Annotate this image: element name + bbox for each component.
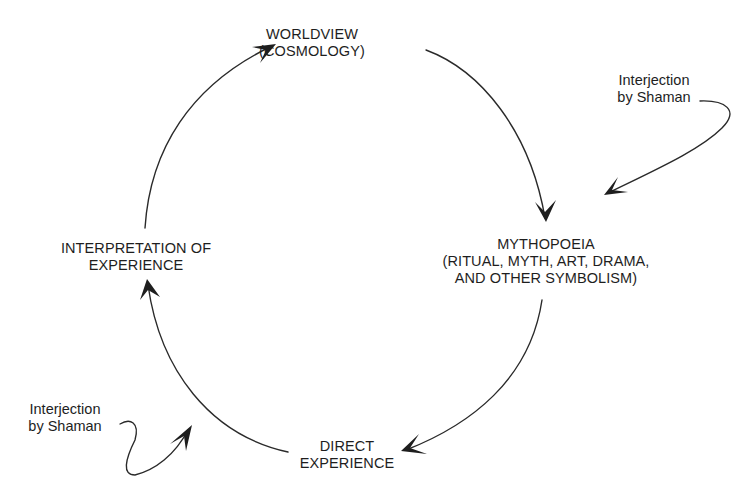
node-worldview: WORLDVIEW (COSMOLOGY) — [259, 26, 365, 60]
interjection-top-right-line-1: Interjection — [617, 72, 690, 89]
arrowhead-mythopoeia-icon — [535, 200, 556, 222]
interjection-bottom-left-connector — [120, 421, 188, 475]
arrowhead-direct-experience-icon — [401, 434, 427, 454]
arrowhead-interjection-top-right-icon — [604, 177, 628, 195]
interjection-bottom-left-line-1: Interjection — [28, 401, 101, 418]
node-worldview-line-1: WORLDVIEW — [259, 26, 365, 43]
interjection-bottom-left-line-2: by Shaman — [28, 418, 101, 435]
interjection-top-right-connector — [610, 101, 730, 192]
arrow-direct-experience-to-interpretation — [148, 285, 288, 452]
node-direct-experience-line-1: DIRECT — [300, 438, 394, 455]
arrow-interpretation-to-worldview — [145, 46, 272, 228]
node-direct-experience: DIRECT EXPERIENCE — [300, 438, 394, 472]
node-interpretation-line-2: EXPERIENCE — [61, 257, 211, 274]
node-worldview-line-2: (COSMOLOGY) — [259, 43, 365, 60]
node-mythopoeia: MYTHOPOEIA (RITUAL, MYTH, ART, DRAMA, AN… — [443, 236, 650, 287]
arrow-mythopoeia-to-direct-experience — [406, 300, 542, 450]
arrow-worldview-to-mythopoeia — [426, 50, 545, 218]
arrowhead-interjection-bottom-left-icon — [170, 425, 192, 451]
node-interpretation-line-1: INTERPRETATION OF — [61, 240, 211, 257]
node-direct-experience-line-2: EXPERIENCE — [300, 455, 394, 472]
node-mythopoeia-line-1: MYTHOPOEIA — [443, 236, 650, 253]
interjection-bottom-left: Interjection by Shaman — [28, 401, 101, 435]
node-interpretation: INTERPRETATION OF EXPERIENCE — [61, 240, 211, 274]
node-mythopoeia-line-2: (RITUAL, MYTH, ART, DRAMA, — [443, 253, 650, 270]
interjection-top-right: Interjection by Shaman — [617, 72, 690, 106]
node-mythopoeia-line-3: AND OTHER SYMBOLISM) — [443, 270, 650, 287]
interjection-top-right-line-2: by Shaman — [617, 89, 690, 106]
